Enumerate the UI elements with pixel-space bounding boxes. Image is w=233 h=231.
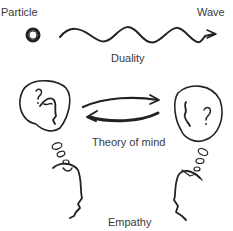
face-profile-left-icon bbox=[53, 164, 82, 218]
diagram-canvas bbox=[0, 0, 233, 231]
wave-icon bbox=[60, 27, 216, 42]
thinking-head-left-icon bbox=[20, 81, 70, 131]
face-profile-right-icon bbox=[174, 170, 202, 220]
particle-icon bbox=[27, 29, 39, 41]
thinking-head-right-icon bbox=[175, 86, 222, 141]
thought-bubbles-left-icon bbox=[51, 141, 69, 164]
bidirectional-arrows-icon bbox=[83, 95, 159, 121]
thought-bubbles-right-icon bbox=[194, 147, 209, 171]
